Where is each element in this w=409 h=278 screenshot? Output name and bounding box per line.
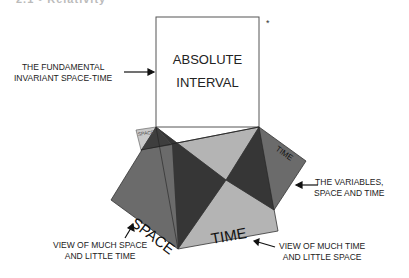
label-much-time: VIEW OF MUCH TIME AND LITTLE SPACE [279, 241, 365, 262]
label-invariant: THE FUNDAMENTAL INVARIANT SPACE-TIME [14, 62, 112, 83]
box-line1: ABSOLUTE [156, 52, 259, 67]
absolute-interval-box [156, 17, 259, 127]
box-line2: INTERVAL [156, 75, 259, 90]
arrow-much-time [258, 242, 275, 247]
spacetime-diagram: SPACE TIME TIME SPACE [0, 0, 409, 278]
label-much-space: VIEW OF MUCH SPACE AND LITTLE TIME [53, 240, 147, 261]
label-variables: THE VARIABLES, SPACE AND TIME [314, 177, 385, 198]
asterisk-marker: * [266, 18, 270, 28]
